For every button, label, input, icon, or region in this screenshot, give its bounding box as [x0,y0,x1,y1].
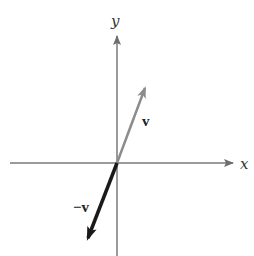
vector-negative-v-label: −v [73,199,90,215]
x-axis-label: x [240,155,249,173]
vector-v [117,88,145,163]
vector-negative-v [88,163,117,238]
vector-diagram: y x v −v [0,0,254,256]
y-axis-label: y [110,12,120,30]
vector-v-label: v [142,113,150,129]
